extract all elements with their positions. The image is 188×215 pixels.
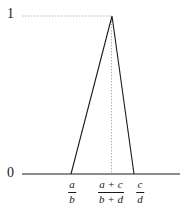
fraction-denominator: b — [68, 194, 76, 206]
fraction-numerator: c — [136, 179, 144, 191]
x-axis-tick-a-over-b: a b — [68, 179, 76, 205]
figure-container: 1 0 a b a + c b + d c d — [0, 0, 188, 215]
fraction-denominator: b + d — [98, 194, 124, 206]
x-axis-tick-c-over-d: c d — [136, 179, 144, 205]
y-axis-tick-one: 1 — [7, 7, 14, 21]
triangle-function-curve — [71, 16, 134, 174]
fraction-numerator: a — [68, 179, 76, 191]
y-axis-tick-zero: 0 — [7, 166, 14, 180]
plot-canvas — [0, 0, 188, 215]
x-axis-tick-a-plus-c-over-b-plus-d: a + c b + d — [98, 179, 124, 205]
fraction-denominator: d — [136, 194, 144, 206]
fraction-numerator: a + c — [98, 179, 124, 191]
